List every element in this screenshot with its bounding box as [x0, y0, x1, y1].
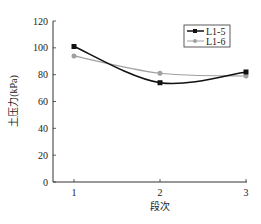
data-point-marker	[72, 53, 77, 58]
y-tick-label: 40	[38, 123, 48, 134]
y-tick-label: 120	[33, 16, 48, 27]
series-group	[72, 44, 249, 85]
y-tick-label: 20	[38, 150, 48, 161]
y-tick-label: 0	[43, 177, 48, 188]
svg-text:L1-6: L1-6	[206, 36, 225, 47]
data-point-marker	[158, 71, 163, 76]
y-axis-title: 土压力(kPa)	[7, 75, 20, 127]
line-chart: 020406080100120 123 土压力(kPa) 段次 L1-5 L1-…	[0, 0, 261, 224]
legend: L1-5 L1-6	[184, 25, 230, 47]
x-tick-label: 2	[158, 187, 163, 198]
x-tick-label: 1	[72, 187, 77, 198]
y-tick-label: 80	[38, 69, 48, 80]
square-marker-icon	[193, 29, 197, 33]
data-point-marker	[158, 80, 163, 85]
y-tick-label: 100	[33, 42, 48, 53]
x-tick-label: 3	[244, 187, 249, 198]
data-point-marker	[244, 69, 249, 74]
y-tick-label: 60	[38, 96, 48, 107]
series-line-l1-5	[74, 46, 246, 83]
x-axis-title: 段次	[150, 200, 170, 212]
data-point-marker	[72, 44, 77, 49]
circle-marker-icon	[193, 39, 197, 43]
